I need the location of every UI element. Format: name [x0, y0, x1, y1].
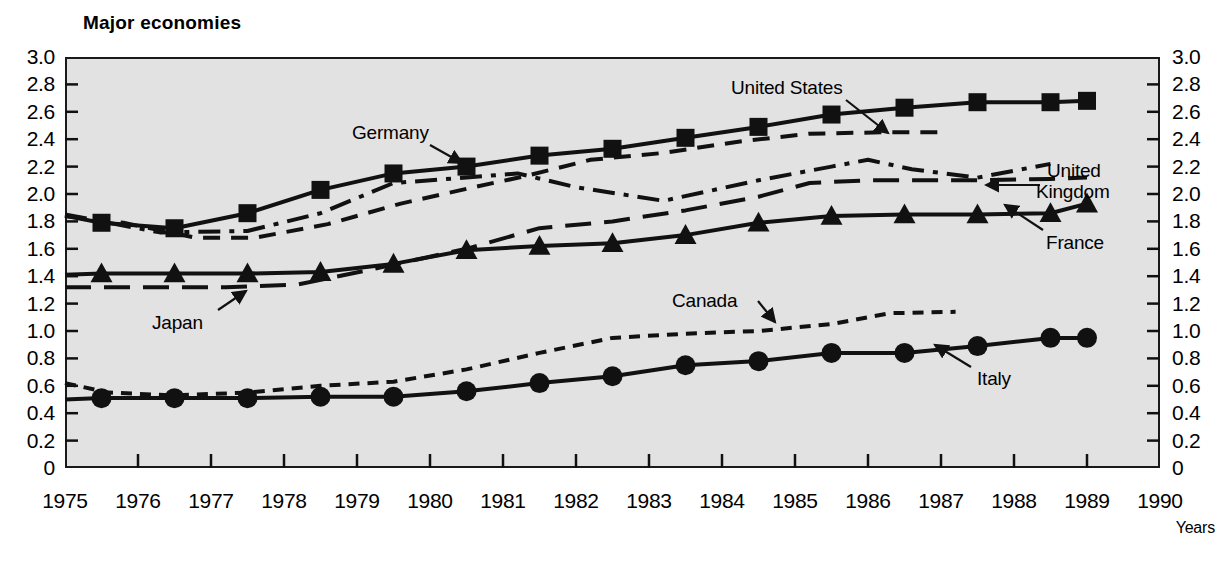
y-axis-tick-label-right: 2.6	[1172, 101, 1229, 122]
y-axis-tick-label-left: 1.6	[0, 238, 55, 259]
y-axis-tick-label-right: 2.4	[1172, 128, 1229, 149]
y-axis-tick-label-left: 0.2	[0, 430, 55, 451]
y-axis-tick-label-left: 2.8	[0, 73, 55, 94]
y-axis-tick-label-left: 0	[0, 457, 55, 478]
series-annotation-italy: Italy	[977, 368, 1011, 389]
x-axis-tick-label: 1989	[1051, 490, 1123, 511]
x-axis-tick-label: 1978	[248, 490, 320, 511]
x-axis-title: Years	[1176, 519, 1215, 537]
y-axis-tick-label-left: 0.8	[0, 347, 55, 368]
x-axis-tick-label: 1983	[613, 490, 685, 511]
x-axis-tick-label: 1975	[29, 490, 101, 511]
x-axis-tick-label: 1984	[686, 490, 758, 511]
y-axis-tick-label-left: 2.6	[0, 101, 55, 122]
series-annotation-united-kingdom-line2: Kingdom	[1036, 181, 1110, 202]
y-axis-tick-label-left: 3.0	[0, 46, 55, 67]
y-axis-tick-label-left: 1.2	[0, 293, 55, 314]
y-axis-tick-label-left: 1.0	[0, 320, 55, 341]
y-axis-tick-label-right: 0.8	[1172, 347, 1229, 368]
x-axis-tick-label: 1988	[978, 490, 1050, 511]
y-axis-tick-label-left: 1.4	[0, 265, 55, 286]
y-axis-tick-label-right: 3.0	[1172, 46, 1229, 67]
series-annotation-united-states: United States	[731, 77, 842, 98]
y-axis-tick-label-left: 2.0	[0, 183, 55, 204]
y-axis-tick-label-right: 1.6	[1172, 238, 1229, 259]
y-axis-tick-label-left: 0.4	[0, 402, 55, 423]
y-axis-tick-label-right: 1.4	[1172, 265, 1229, 286]
y-axis-tick-label-left: 2.2	[0, 156, 55, 177]
y-axis-tick-label-right: 2.2	[1172, 156, 1229, 177]
x-axis-tick-label: 1990	[1124, 490, 1196, 511]
y-axis-tick-label-right: 0.6	[1172, 375, 1229, 396]
y-axis-tick-label-right: 0	[1172, 457, 1229, 478]
x-axis-tick-label: 1985	[759, 490, 831, 511]
y-axis-tick-label-left: 1.8	[0, 210, 55, 231]
x-axis-tick-label: 1976	[102, 490, 174, 511]
y-axis-tick-label-right: 1.0	[1172, 320, 1229, 341]
x-axis-tick-label: 1987	[905, 490, 977, 511]
series-annotation-germany: Germany	[352, 122, 429, 143]
x-axis-tick-label: 1977	[175, 490, 247, 511]
y-axis-tick-label-right: 0.2	[1172, 430, 1229, 451]
y-axis-tick-label-right: 2.0	[1172, 183, 1229, 204]
x-axis-tick-label: 1980	[394, 490, 466, 511]
plot-area	[65, 57, 1160, 468]
y-axis-tick-label-right: 1.2	[1172, 293, 1229, 314]
chart-title: Major economies	[83, 12, 241, 34]
x-axis-tick-label: 1981	[467, 490, 539, 511]
series-annotation-japan: Japan	[152, 312, 203, 333]
y-axis-tick-label-right: 1.8	[1172, 210, 1229, 231]
chart-root: Major economies 00.20.40.60.81.01.21.41.…	[0, 0, 1229, 572]
y-axis-tick-label-left: 0.6	[0, 375, 55, 396]
series-annotation-canada: Canada	[672, 290, 737, 311]
x-axis-tick-label: 1986	[832, 490, 904, 511]
y-axis-tick-label-left: 2.4	[0, 128, 55, 149]
series-annotation-united-kingdom-line1: United	[1047, 160, 1101, 181]
x-axis-tick-label: 1982	[540, 490, 612, 511]
y-axis-tick-label-right: 0.4	[1172, 402, 1229, 423]
series-annotation-france: France	[1046, 232, 1104, 253]
y-axis-tick-label-right: 2.8	[1172, 73, 1229, 94]
x-axis-tick-label: 1979	[321, 490, 393, 511]
